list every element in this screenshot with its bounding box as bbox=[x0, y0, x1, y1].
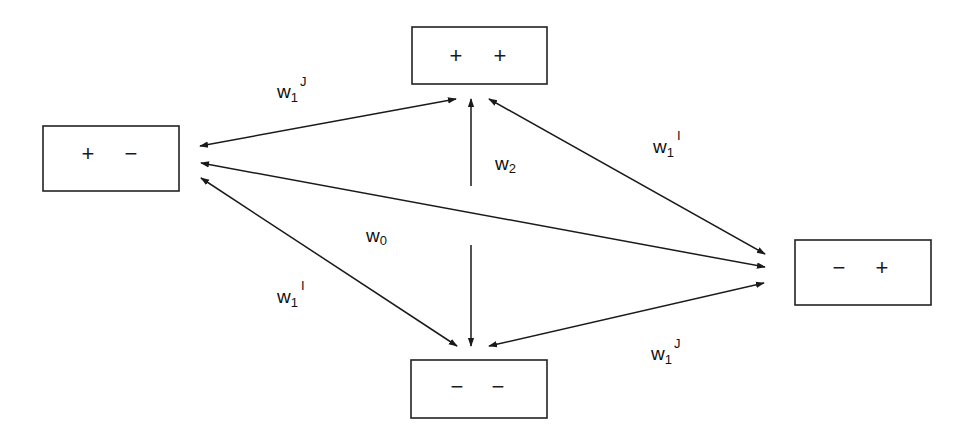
weight-label-w1J-top: w1J bbox=[276, 74, 306, 105]
sign-2: − bbox=[492, 374, 505, 399]
sign-2: + bbox=[876, 255, 889, 280]
weight-label-w1J-bottom: w1J bbox=[650, 336, 680, 367]
state-node-plus-plus: + + bbox=[412, 27, 547, 84]
state-box bbox=[412, 27, 547, 84]
weight-label-w1I-right: w1I bbox=[652, 128, 681, 160]
sign-1: − bbox=[451, 374, 464, 399]
weight-label-w1I-left: w1I bbox=[276, 278, 305, 310]
edge-pm-mp bbox=[201, 163, 765, 267]
sign-1: − bbox=[833, 255, 846, 280]
edge-mm-mp bbox=[489, 283, 764, 346]
state-box bbox=[411, 360, 547, 418]
sign-1: + bbox=[82, 141, 95, 166]
state-box bbox=[795, 240, 931, 305]
sign-1: + bbox=[450, 43, 463, 68]
state-node-minus-minus: − − bbox=[411, 360, 547, 418]
state-node-plus-minus: + − bbox=[43, 126, 179, 191]
state-box bbox=[43, 126, 179, 191]
edge-pp-mp bbox=[489, 99, 765, 254]
weight-label-w2: w2 bbox=[494, 153, 516, 176]
sign-2: + bbox=[494, 43, 507, 68]
state-node-minus-plus: − + bbox=[795, 240, 931, 305]
weight-label-w0: w0 bbox=[365, 225, 387, 248]
state-transition-diagram: + + + − − + − − w1J w1I w2 w0 w1I w1J bbox=[0, 0, 968, 446]
edge-pm-pp bbox=[200, 99, 456, 146]
sign-2: − bbox=[125, 141, 138, 166]
